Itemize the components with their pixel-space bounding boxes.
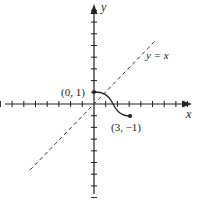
coordinate-diagram: y x y = x (0, 1) (3, −1) xyxy=(0,0,197,202)
y-axis-arrow-icon xyxy=(91,4,98,14)
line-label: y = x xyxy=(145,49,169,61)
point-start xyxy=(92,90,96,94)
end-point-label: (3, −1) xyxy=(111,121,141,134)
point-end xyxy=(128,114,132,118)
x-axis xyxy=(0,101,192,108)
x-axis-label: x xyxy=(185,107,192,121)
y-axis-label: y xyxy=(100,0,107,14)
y-axis xyxy=(91,4,98,198)
start-point-label: (0, 1) xyxy=(61,86,85,99)
